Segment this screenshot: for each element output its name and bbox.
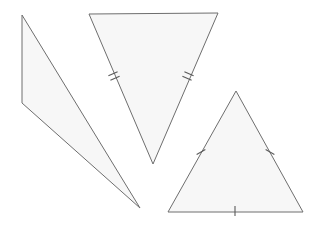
geometry-figure-svg	[0, 0, 322, 226]
figure-canvas	[0, 0, 322, 226]
